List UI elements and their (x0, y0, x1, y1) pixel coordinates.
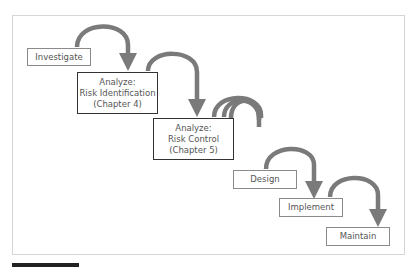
step-label: Maintain (340, 231, 377, 242)
step-label-line2: Risk Identification (79, 88, 155, 99)
step-implement: Implement (279, 198, 343, 217)
step-label-line3: (Chapter 5) (169, 145, 218, 156)
step-analyze-risk-identification: Analyze: Risk Identification (Chapter 4) (77, 72, 158, 114)
step-design: Design (233, 170, 297, 189)
step-maintain: Maintain (326, 227, 390, 246)
step-label: Implement (288, 202, 334, 213)
step-label-line1: Analyze: (99, 77, 135, 88)
step-analyze-risk-control: Analyze: Risk Control (Chapter 5) (153, 118, 234, 160)
step-label-line2: Risk Control (168, 134, 219, 145)
step-label-line1: Analyze: (175, 123, 211, 134)
step-investigate: Investigate (27, 48, 91, 66)
step-label-line3: (Chapter 4) (93, 99, 142, 110)
caption-bar (12, 263, 79, 267)
step-label: Design (250, 174, 279, 185)
step-label: Investigate (35, 52, 82, 63)
